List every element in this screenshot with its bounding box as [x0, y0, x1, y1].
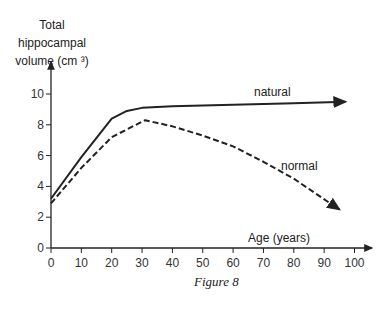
x-tick-label: 70 [257, 256, 271, 270]
x-tick-label: 90 [317, 256, 331, 270]
x-tick-label: 80 [287, 256, 301, 270]
figure-caption: Figure 8 [194, 274, 239, 290]
y-tick-label: 8 [37, 118, 44, 132]
x-tick-label: 10 [75, 256, 89, 270]
x-tick-label: 20 [105, 256, 119, 270]
y-tick-label: 0 [37, 241, 44, 255]
x-tick-label: 50 [196, 256, 210, 270]
series-label-normal: normal [281, 159, 318, 173]
y-tick-label: 6 [37, 149, 44, 163]
y-tick-label: 2 [37, 210, 44, 224]
x-tick-label: 40 [166, 256, 180, 270]
y-tick-label: 10 [31, 87, 45, 101]
x-tick-label: 30 [135, 256, 149, 270]
x-axis-label: Age (years) [248, 231, 310, 245]
series-label-natural: natural [254, 85, 291, 99]
x-tick-label: 60 [226, 256, 240, 270]
line-chart: 01020304050607080901000246810naturalnorm… [0, 0, 389, 311]
x-tick-label: 100 [344, 256, 364, 270]
x-tick-label: 0 [48, 256, 55, 270]
y-tick-label: 4 [37, 179, 44, 193]
